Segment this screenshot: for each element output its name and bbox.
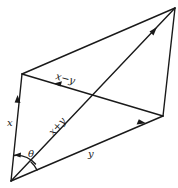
vector-x (11, 74, 22, 181)
label-x: x (7, 117, 13, 128)
edge-top (22, 8, 175, 74)
vector-x-minus-y (22, 74, 163, 116)
parallelogram-diagram: x y x+y x−y θ (0, 0, 178, 188)
label-sum: x+y (46, 115, 68, 137)
label-y: y (87, 148, 94, 159)
edge-right (163, 8, 175, 116)
arrow-angle-icon (14, 153, 21, 158)
label-theta: θ (28, 148, 34, 159)
